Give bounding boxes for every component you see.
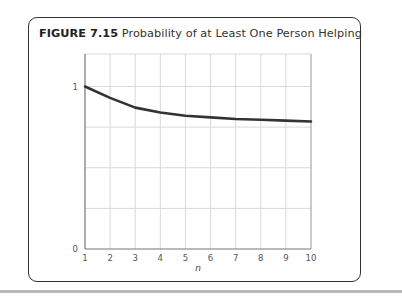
x-tick-label: 9 <box>283 253 288 263</box>
x-tick-label: 10 <box>306 253 317 263</box>
x-tick-label: 8 <box>258 253 263 263</box>
y-tick-label: 1 <box>73 82 78 92</box>
x-tick-label: 3 <box>133 253 138 263</box>
line-chart: 1234567891001n <box>0 0 402 305</box>
page-rule <box>0 290 402 293</box>
x-tick-label: 1 <box>82 253 87 263</box>
x-tick-label: 7 <box>233 253 238 263</box>
y-tick-label: 0 <box>73 244 78 254</box>
x-axis-label: n <box>195 263 201 273</box>
series-line <box>85 87 311 122</box>
x-tick-label: 2 <box>107 253 112 263</box>
x-tick-label: 4 <box>158 253 163 263</box>
x-tick-label: 6 <box>208 253 213 263</box>
x-tick-label: 5 <box>183 253 188 263</box>
